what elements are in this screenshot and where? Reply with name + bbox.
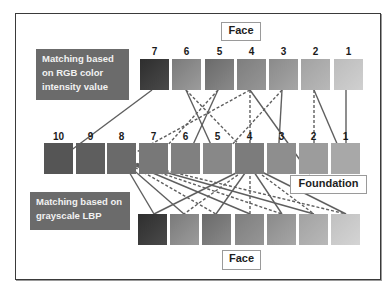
color-swatch bbox=[203, 143, 232, 174]
color-swatch bbox=[170, 214, 199, 245]
lbp-label-line: grayscale LBP bbox=[36, 209, 124, 223]
color-swatch bbox=[44, 143, 73, 174]
face-tag-bottom: Face bbox=[222, 250, 261, 270]
swatch-number: 3 bbox=[269, 46, 298, 57]
swatch-number: 6 bbox=[172, 46, 201, 57]
color-swatch bbox=[334, 59, 363, 90]
swatch-number: 7 bbox=[140, 46, 169, 57]
color-swatch bbox=[139, 143, 168, 174]
color-swatch bbox=[267, 143, 296, 174]
swatch-number: 2 bbox=[299, 131, 328, 142]
color-swatch bbox=[331, 214, 360, 245]
swatch-number: 10 bbox=[44, 131, 73, 142]
color-swatch bbox=[107, 143, 136, 174]
color-swatch bbox=[267, 214, 296, 245]
color-swatch bbox=[237, 59, 266, 90]
swatch-number: 3 bbox=[267, 131, 296, 142]
color-swatch bbox=[172, 59, 201, 90]
swatch-number: 5 bbox=[205, 46, 234, 57]
color-swatch bbox=[205, 59, 234, 90]
color-swatch bbox=[140, 59, 169, 90]
swatch-number: 2 bbox=[301, 46, 330, 57]
color-swatch bbox=[299, 214, 328, 245]
foundation-tag: Foundation bbox=[290, 175, 367, 194]
color-swatch bbox=[202, 214, 231, 245]
swatch-number: 4 bbox=[235, 131, 264, 142]
rgb-label-line: intensity value bbox=[42, 80, 123, 94]
rgb-matching-label: Matching based on RGB color intensity va… bbox=[36, 49, 129, 100]
lbp-label-line: Matching based on bbox=[36, 195, 124, 209]
lbp-matching-label: Matching based on grayscale LBP bbox=[30, 192, 130, 230]
swatch-number: 6 bbox=[171, 131, 200, 142]
swatch-number: 8 bbox=[107, 131, 136, 142]
rgb-label-line: Matching based bbox=[42, 52, 123, 66]
color-swatch bbox=[301, 59, 330, 90]
color-swatch bbox=[171, 143, 200, 174]
face-tag-top: Face bbox=[221, 22, 261, 41]
swatch-number: 5 bbox=[203, 131, 232, 142]
color-swatch bbox=[331, 143, 360, 174]
swatch-number: 4 bbox=[237, 46, 266, 57]
swatch-number: 7 bbox=[139, 131, 168, 142]
rgb-label-line: on RGB color bbox=[42, 66, 123, 80]
color-swatch bbox=[299, 143, 328, 174]
color-swatch bbox=[269, 59, 298, 90]
color-swatch bbox=[235, 143, 264, 174]
color-swatch bbox=[138, 214, 167, 245]
swatch-number: 1 bbox=[331, 131, 360, 142]
color-swatch bbox=[76, 143, 105, 174]
color-swatch bbox=[235, 214, 264, 245]
swatch-number: 9 bbox=[76, 131, 105, 142]
swatch-number: 1 bbox=[334, 46, 363, 57]
